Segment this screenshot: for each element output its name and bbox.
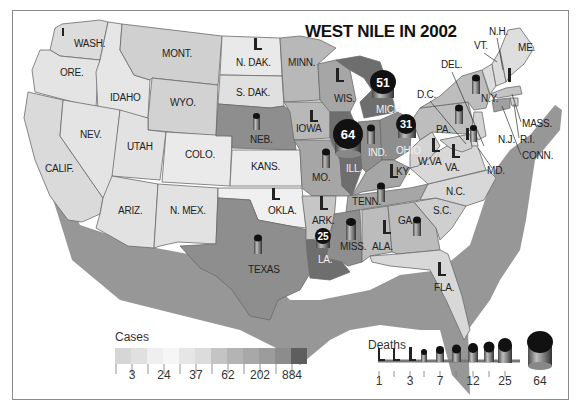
label-ndak: N. DAK. [236, 57, 271, 68]
death-cylinder-mich: 51 [370, 70, 396, 98]
label-mass: MASS. [522, 118, 552, 129]
label-iowa: IOWA [296, 123, 322, 134]
label-sc: S.C. [433, 205, 452, 216]
cases-tick-labels: 3 24 37 62 202 884 [115, 364, 307, 386]
label-idaho: IDAHO [110, 92, 141, 103]
state-ndak[interactable] [220, 36, 282, 76]
label-nmex: N. MEX. [170, 205, 206, 216]
label-utah: UTAH [127, 141, 153, 152]
cases-legend: Cases 3 24 37 62 202 884 [115, 330, 307, 386]
deaths-tick: 25 [498, 374, 511, 388]
death-count-ohio: 31 [400, 118, 412, 130]
death-count-mich: 51 [376, 76, 390, 90]
label-wash: WASH. [74, 38, 105, 49]
label-nc: N.C. [446, 186, 465, 197]
label-okla: OKLA. [268, 205, 296, 216]
death-count-la: 25 [317, 231, 329, 242]
deaths-legend: Deaths 1 3 7 12 25 64 [362, 330, 562, 392]
swatch-1 [115, 348, 131, 364]
deaths-tick: 1 [376, 374, 383, 388]
swatch-10 [259, 348, 275, 364]
label-mo: MO. [312, 172, 330, 183]
label-tenn: TENN. [352, 196, 381, 207]
label-ri: R.I. [520, 134, 535, 145]
deaths-tick: 64 [533, 374, 546, 388]
label-ny: N.Y. [481, 93, 498, 104]
label-wis: WIS. [334, 93, 355, 104]
swatch-4 [163, 348, 179, 364]
label-del: DEL. [441, 59, 462, 70]
label-ala: ALA. [372, 241, 393, 252]
label-mont: MONT. [162, 48, 192, 59]
label-ill: ILL. [346, 163, 362, 174]
label-va: VA. [445, 162, 460, 173]
swatch-2 [131, 348, 147, 364]
label-nev: NEV. [80, 129, 102, 140]
label-fla: FLA. [434, 282, 454, 293]
swatch-5 [179, 348, 195, 364]
label-nj: N.J. [498, 134, 515, 145]
label-minn: MINN. [288, 57, 315, 68]
label-conn: CONN. [522, 150, 553, 161]
cases-tick: 24 [157, 368, 170, 382]
label-ore: ORE. [60, 67, 84, 78]
cases-swatches [115, 348, 307, 364]
swatch-3 [147, 348, 163, 364]
label-wyo: WYO. [170, 97, 196, 108]
cases-legend-title: Cases [115, 330, 307, 344]
state-nmex[interactable] [154, 184, 218, 248]
death-cylinder-la: 25 [315, 228, 331, 248]
label-me: ME. [518, 42, 535, 53]
label-la: LA. [318, 254, 332, 265]
swatch-8 [227, 348, 243, 364]
swatch-7 [211, 348, 227, 364]
label-md: MD. [487, 165, 505, 176]
cases-tick: 202 [250, 368, 270, 382]
cases-tick: 37 [189, 368, 202, 382]
cases-tick: 62 [221, 368, 234, 382]
label-dc: D.C. [417, 89, 436, 100]
death-cylinder-ill: 64 [333, 119, 363, 158]
deaths-tick: 7 [437, 374, 444, 388]
label-ark: ARK. [312, 215, 335, 226]
deaths-tick: 3 [407, 374, 414, 388]
label-colo: COLO. [185, 149, 215, 160]
cases-tick: 3 [129, 368, 136, 382]
deaths-legend-title: Deaths [368, 338, 406, 352]
map-title: WEST NILE IN 2002 [305, 22, 457, 42]
swatch-12 [291, 348, 307, 364]
label-ky: KY. [396, 166, 410, 177]
label-texas: TEXAS [248, 264, 280, 275]
label-calif: CALIF. [45, 163, 74, 174]
death-cylinder-ohio: 31 [396, 114, 416, 138]
label-miss: MISS. [340, 241, 366, 252]
label-vt: VT. [474, 40, 488, 51]
label-ohio: OHIO [396, 145, 421, 156]
death-count-ill: 64 [341, 127, 356, 142]
label-sdak: S. DAK. [236, 87, 270, 98]
label-mich: MICH. [376, 104, 403, 115]
label-pa: PA. [436, 124, 451, 135]
label-nh: N.H. [489, 26, 508, 37]
deaths-tick: 12 [466, 374, 479, 388]
label-ga: GA. [398, 215, 415, 226]
label-kans: KANS. [251, 161, 280, 172]
cases-tick: 884 [282, 368, 302, 382]
label-ind: IND. [368, 147, 387, 158]
swatch-6 [195, 348, 211, 364]
swatch-9 [243, 348, 259, 364]
label-wva: W.VA [418, 156, 442, 167]
label-ariz: ARIZ. [118, 205, 143, 216]
swatch-11 [275, 348, 291, 364]
label-neb: NEB. [250, 134, 273, 145]
